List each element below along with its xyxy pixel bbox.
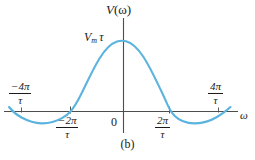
tick-label-pos-4pi-denominator: τ bbox=[208, 94, 223, 107]
x-axis-label: ω bbox=[240, 110, 248, 121]
peak-label-tau: τ bbox=[99, 30, 103, 44]
peak-label-subscript: m bbox=[91, 36, 97, 45]
tick-label-pos-2pi-over-tau: 2π τ bbox=[155, 114, 170, 141]
tick-label-pos-4pi-over-tau: 4π τ bbox=[208, 80, 223, 107]
tick-label-neg-2pi-over-tau: −2π τ bbox=[56, 114, 78, 141]
tick-label-pos-4pi-numerator: 4π bbox=[208, 80, 223, 94]
y-axis-title-argument: (ω) bbox=[114, 2, 131, 17]
origin-label: 0 bbox=[111, 116, 117, 128]
tick-label-pos-2pi-numerator: 2π bbox=[155, 114, 170, 128]
figure-caption: (b) bbox=[0, 138, 255, 150]
peak-value-label: Vmτ bbox=[84, 31, 103, 45]
tick-label-neg-2pi-numerator: −2π bbox=[56, 114, 78, 128]
tick-label-neg-4pi-numerator: −4π bbox=[9, 80, 31, 94]
tick-label-neg-4pi-over-tau: −4π τ bbox=[9, 80, 31, 107]
y-axis-title-variable: V bbox=[106, 2, 114, 17]
fourier-transform-figure: V(ω) Vmτ −4π τ −2π τ 2π τ 4π τ 0 ω (b) bbox=[0, 0, 255, 160]
tick-label-neg-4pi-denominator: τ bbox=[9, 94, 31, 107]
y-axis-title: V(ω) bbox=[106, 3, 131, 16]
